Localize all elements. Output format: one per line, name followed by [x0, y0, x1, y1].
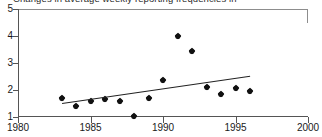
x-axis-label: 1985 — [74, 122, 108, 133]
y-axis-label: 3 — [0, 58, 13, 68]
x-axis-label: 1995 — [219, 122, 253, 133]
y-axis-label: 4 — [0, 31, 13, 41]
y-axis-tick — [13, 90, 19, 91]
y-axis-label: 1 — [0, 112, 13, 122]
x-axis-label: 2000 — [291, 122, 322, 133]
y-axis-tick — [13, 36, 19, 37]
x-axis-label: 1990 — [146, 122, 180, 133]
y-axis-label: 2 — [0, 85, 13, 95]
chart-container: Changes in average weekly reporting freq… — [0, 0, 322, 137]
y-axis-label: 5 — [0, 4, 13, 14]
y-axis-tick — [13, 63, 19, 64]
chart-title: Changes in average weekly reporting freq… — [13, 0, 237, 4]
y-axis-tick — [13, 9, 19, 10]
x-axis-label: 1980 — [1, 122, 35, 133]
